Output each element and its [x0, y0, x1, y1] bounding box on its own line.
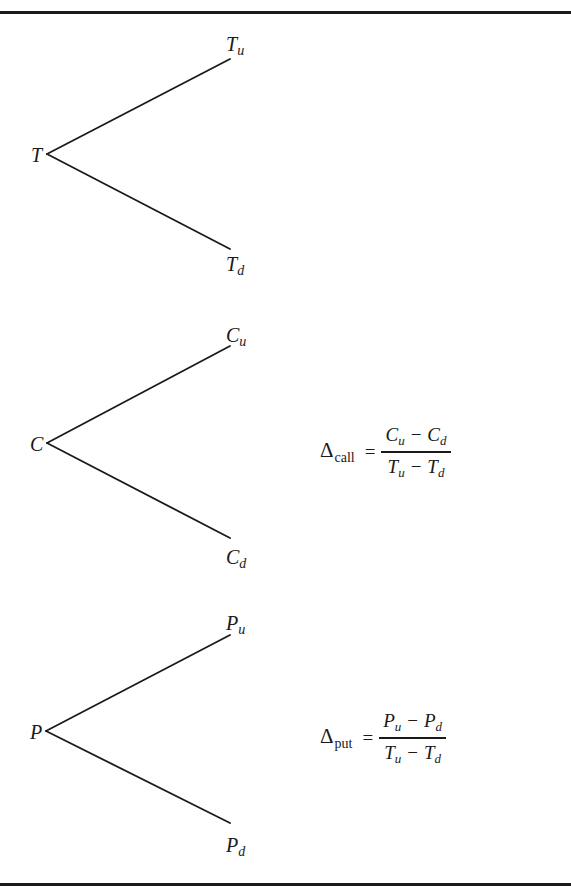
call-down-branch [47, 443, 230, 538]
equals-sign: = [362, 727, 373, 749]
fraction-bar [379, 737, 446, 739]
fraction-bar [381, 451, 450, 453]
call-delta-fraction: Cu−Cd Tu−Td [381, 424, 450, 481]
underlying-root-label: T [31, 145, 42, 165]
put-root-label: P [30, 722, 42, 742]
call-up-label: Cu [226, 325, 246, 349]
underlying-up-label: Tu [226, 34, 244, 58]
put-delta-formula: Δput = Pu−Pd Tu−Td [320, 710, 446, 767]
call-delta-formula: Δcall = Cu−Cd Tu−Td [320, 424, 451, 481]
delta-call-symbol: Δcall [320, 438, 355, 466]
put-down-label: Pd [226, 835, 245, 859]
put-down-branch [46, 731, 230, 823]
put-up-label: Pu [226, 613, 245, 637]
underlying-up-branch [47, 59, 230, 154]
delta-put-symbol: Δput [320, 724, 352, 752]
put-delta-fraction: Pu−Pd Tu−Td [379, 710, 446, 767]
underlying-down-branch [47, 154, 230, 249]
call-down-label: Cd [226, 547, 246, 571]
fraction-denominator: Tu−Td [380, 742, 445, 767]
call-root-label: C [30, 434, 43, 454]
equals-sign: = [365, 441, 376, 463]
tree-branches [0, 0, 571, 894]
underlying-down-label: Td [226, 254, 244, 278]
fraction-denominator: Tu−Td [384, 456, 449, 481]
fraction-numerator: Cu−Cd [381, 424, 450, 449]
call-up-branch [47, 346, 230, 443]
fraction-numerator: Pu−Pd [379, 710, 446, 735]
put-up-branch [46, 635, 230, 731]
